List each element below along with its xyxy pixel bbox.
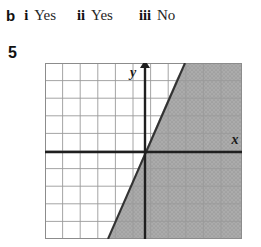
- x-axis-label: x: [231, 132, 239, 147]
- roman-numeral-iii: iii: [139, 7, 151, 24]
- answer-value-ii: Yes: [91, 7, 113, 24]
- coordinate-graph: y x: [45, 63, 242, 239]
- answer-line: b i Yes ii Yes iii No: [0, 0, 261, 30]
- answer-value-iii: No: [157, 7, 175, 24]
- question-number: 5: [8, 44, 17, 62]
- roman-numeral-i: i: [24, 7, 28, 24]
- answer-item-i: i Yes: [24, 7, 56, 24]
- y-axis-label: y: [128, 65, 137, 80]
- roman-numeral-ii: ii: [77, 7, 85, 24]
- graph-svg: y x: [45, 63, 242, 239]
- answer-value-i: Yes: [34, 7, 56, 24]
- answer-item-ii: ii Yes: [77, 7, 113, 24]
- answer-item-iii: iii No: [139, 7, 175, 24]
- part-label: b: [6, 7, 15, 24]
